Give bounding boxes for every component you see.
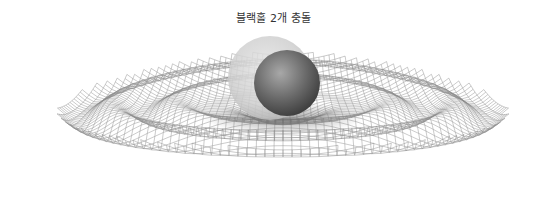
black-hole-front bbox=[254, 50, 320, 116]
black-hole-collision-illustration bbox=[0, 0, 547, 213]
